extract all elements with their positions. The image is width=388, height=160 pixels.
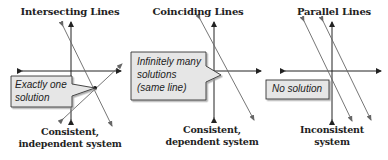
callout-parallel-line1: No solution xyxy=(272,83,322,95)
caption-line2: system xyxy=(300,136,364,148)
panel-coinciding-title: Coinciding Lines xyxy=(152,6,243,17)
panel-intersecting-title: Intersecting Lines xyxy=(21,6,120,17)
caption-line1: Consistent, xyxy=(18,126,121,138)
callout-coinciding-line1: Infinitely many xyxy=(137,56,201,68)
callout-coinciding-line3: (same line) xyxy=(137,82,186,94)
panel-parallel-title: Parallel Lines xyxy=(297,6,371,17)
panel-parallel-caption: Inconsistent system xyxy=(300,124,364,148)
callout-coinciding-line2: solutions xyxy=(137,69,176,81)
panel-coinciding-caption: Consistent, dependent system xyxy=(165,124,258,148)
caption-line2: dependent system xyxy=(165,136,258,148)
callout-intersecting-line2: solution xyxy=(15,92,49,104)
caption-line2: independent system xyxy=(18,138,121,150)
caption-line1: Consistent, xyxy=(165,124,258,136)
panel-parallel-graph xyxy=(266,21,381,121)
caption-line1: Inconsistent xyxy=(300,124,364,136)
callout-intersecting-line1: Exactly one xyxy=(15,79,67,91)
systems-of-equations-diagram: Intersecting Lines Exactly one solution … xyxy=(0,0,388,160)
panel-intersecting-caption: Consistent, independent system xyxy=(18,126,121,150)
panel-intersecting-graph xyxy=(11,22,122,126)
